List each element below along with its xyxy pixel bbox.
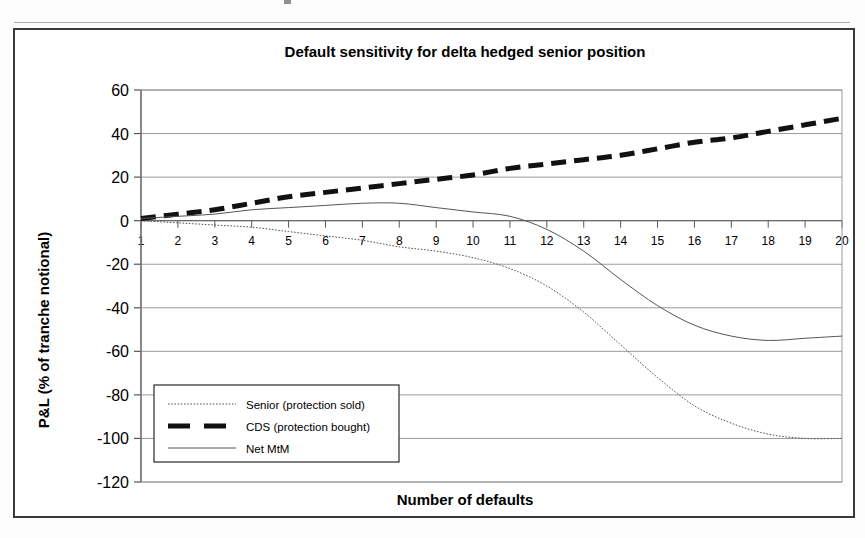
- y-tick-label: 0: [120, 213, 129, 230]
- scan-artifact-line: [14, 22, 850, 23]
- x-tick-label: 17: [725, 234, 739, 248]
- legend-label-2: Net MtM: [246, 443, 289, 455]
- y-axis-title: P&L (% of tranche notional): [35, 232, 52, 428]
- chart-canvas: Default sensitivity for delta hedged sen…: [15, 30, 857, 516]
- x-tick-label: 10: [466, 234, 480, 248]
- y-tick-label: -80: [106, 387, 129, 404]
- x-tick-label: 2: [175, 234, 182, 248]
- x-tick-label: 18: [762, 234, 776, 248]
- x-tick-label: 9: [433, 234, 440, 248]
- x-tick-label: 3: [211, 234, 218, 248]
- y-tick-label: -20: [106, 256, 129, 273]
- y-tick-label: 60: [111, 82, 129, 99]
- y-tick-label: 20: [111, 169, 129, 186]
- legend-label-1: CDS (protection bought): [246, 421, 370, 433]
- legend-label-0: Senior (protection sold): [246, 399, 365, 411]
- x-tick-label: 15: [651, 234, 665, 248]
- y-tick-label: 40: [111, 126, 129, 143]
- y-tick-label: -120: [97, 474, 129, 491]
- y-axis-ticks: 6040200-20-40-60-80-100-120: [97, 82, 141, 491]
- chart-frame: Default sensitivity for delta hedged sen…: [13, 28, 855, 518]
- x-tick-label: 14: [614, 234, 628, 248]
- y-tick-label: -60: [106, 343, 129, 360]
- x-tick-label: 8: [396, 234, 403, 248]
- chart-legend: Senior (protection sold)CDS (protection …: [154, 385, 399, 462]
- x-axis-title: Number of defaults: [397, 491, 534, 508]
- series-line-2: [141, 203, 842, 341]
- y-tick-label: -100: [97, 430, 129, 447]
- x-tick-label: 16: [688, 234, 702, 248]
- x-tick-label: 4: [248, 234, 255, 248]
- scan-artifact-mark: [284, 0, 291, 4]
- chart-page: Default sensitivity for delta hedged sen…: [0, 0, 865, 538]
- x-tick-label: 13: [577, 234, 591, 248]
- x-tick-label: 19: [798, 234, 812, 248]
- x-tick-label: 11: [504, 234, 517, 248]
- x-tick-label: 5: [285, 234, 292, 248]
- y-tick-label: -40: [106, 300, 129, 317]
- x-tick-label: 12: [540, 234, 554, 248]
- x-axis-ticks: 1234567891011121314151617181920: [138, 221, 849, 248]
- chart-title: Default sensitivity for delta hedged sen…: [285, 43, 646, 60]
